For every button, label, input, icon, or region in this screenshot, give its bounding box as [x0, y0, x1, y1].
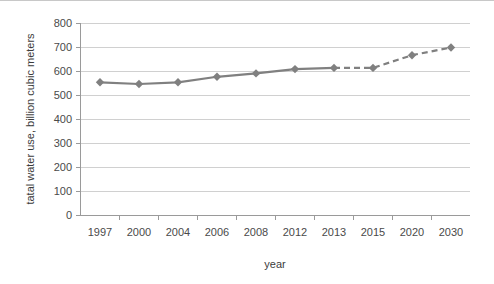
x-tick-label: 2012: [283, 226, 307, 238]
x-axis-title: year: [264, 258, 286, 270]
data-point-marker: [174, 78, 182, 86]
x-tick-labels: 1997 2000 2004 2006 2008 2012 2013 2015 …: [88, 226, 463, 238]
data-point-marker: [447, 43, 455, 51]
y-tick-label: 400: [54, 113, 72, 125]
data-point-marker: [135, 80, 143, 88]
y-tick-label: 0: [66, 209, 72, 221]
y-tick-marks: [76, 24, 80, 216]
x-tick-label: 2030: [439, 226, 463, 238]
data-point-marker: [330, 64, 338, 72]
data-point-marker: [408, 51, 416, 59]
data-point-marker: [291, 65, 299, 73]
x-tick-label: 1997: [88, 226, 112, 238]
chart-plot-area: 800 700 600 500 400 300 200 100 0 1997 2…: [0, 0, 494, 284]
y-axis-title: tatal water use, billion cubic meters: [24, 33, 36, 205]
y-tick-label: 300: [54, 137, 72, 149]
x-tick-label: 2000: [127, 226, 151, 238]
y-tick-label: 700: [54, 41, 72, 53]
data-point-marker: [96, 78, 104, 86]
y-tick-label: 100: [54, 185, 72, 197]
line-chart-figure: 800 700 600 500 400 300 200 100 0 1997 2…: [0, 0, 494, 284]
data-point-marker: [213, 73, 221, 81]
x-tick-label: 2015: [361, 226, 385, 238]
data-point-marker: [252, 69, 260, 77]
y-tick-label: 200: [54, 161, 72, 173]
x-tick-label: 2008: [244, 226, 268, 238]
x-tick-label: 2006: [205, 226, 229, 238]
y-gridlines: [80, 24, 470, 192]
y-tick-label: 800: [54, 17, 72, 29]
y-tick-label: 600: [54, 65, 72, 77]
data-point-marker: [369, 64, 377, 72]
y-tick-label: 500: [54, 89, 72, 101]
data-series-layer: [96, 43, 455, 88]
x-tick-label: 2020: [400, 226, 424, 238]
series-line-dashed: [334, 48, 451, 68]
y-tick-labels: 800 700 600 500 400 300 200 100 0: [54, 17, 72, 221]
x-tick-label: 2013: [322, 226, 346, 238]
x-tick-label: 2004: [166, 226, 190, 238]
